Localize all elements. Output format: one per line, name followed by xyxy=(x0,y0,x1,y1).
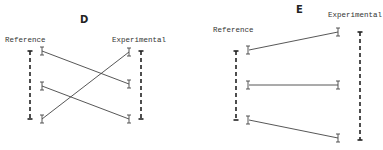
panel-e-reference-range xyxy=(234,51,239,120)
panel-d-experimental-range xyxy=(139,51,144,119)
panel-e-title: E xyxy=(296,4,303,15)
panel-d-experimental-label: Experimental xyxy=(112,36,167,44)
panel-e-reference-label: Reference xyxy=(213,26,254,34)
panel-d-title: D xyxy=(80,14,88,25)
panel-e-experimental-label: Experimental xyxy=(328,11,383,19)
panel-e-experimental-range xyxy=(358,32,363,140)
panel-e-connectors xyxy=(249,32,338,138)
panel-d-connectors xyxy=(42,51,129,119)
panel-d-reference-label: Reference xyxy=(5,36,46,44)
panel-d-reference-range xyxy=(28,51,33,119)
figure: D Reference Experimental xyxy=(0,0,383,150)
panel-e: E Reference Experimental xyxy=(213,4,383,142)
panel-d: D Reference Experimental xyxy=(5,14,167,123)
